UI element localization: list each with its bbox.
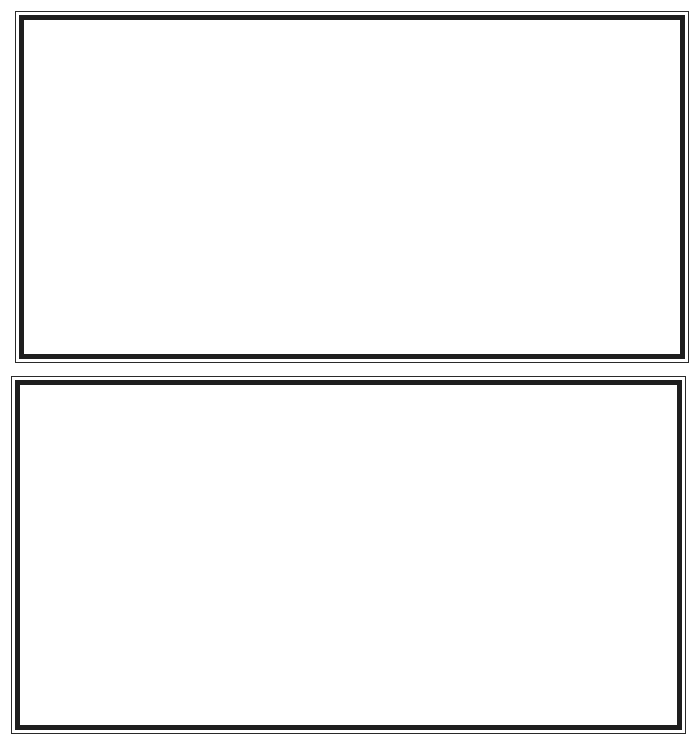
blank-frame-bottom-inner-border [15, 380, 682, 730]
blank-frame-top-inner-border [19, 15, 685, 359]
blank-frame-top-content [24, 20, 680, 354]
blank-frame-bottom-content [20, 385, 677, 725]
blank-frame-bottom [11, 376, 686, 734]
blank-frame-top [15, 11, 689, 363]
